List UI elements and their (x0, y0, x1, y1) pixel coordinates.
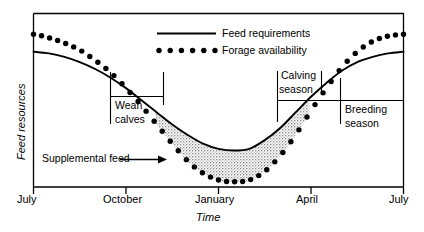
annotation-calving-season-line1: Calving (281, 70, 316, 81)
forage-data-point (288, 139, 293, 144)
forage-data-point (200, 170, 205, 175)
x-axis-title: Time (196, 212, 220, 224)
forage-data-point (248, 177, 253, 182)
annotation-breeding-season-line2: season (345, 118, 379, 129)
x-tick-label-july-end: July (389, 194, 409, 206)
forage-data-point (224, 179, 229, 184)
legend-label-forage-availability: Forage availability (222, 45, 307, 56)
forage-data-point (361, 44, 366, 49)
forage-data-point (345, 59, 350, 64)
forage-data-point (312, 102, 317, 107)
forage-data-point (304, 114, 309, 119)
forage-data-point (377, 36, 382, 41)
x-tick-label-july-start: July (17, 194, 37, 206)
legend-forage-dot (156, 48, 161, 53)
legend-forage-dot (201, 48, 206, 53)
legend-forage-swatch (156, 48, 217, 53)
forage-data-point (401, 32, 406, 37)
x-tick-label-january: January (195, 194, 234, 206)
annotation-calving-season-line2: season (279, 84, 313, 95)
legend-forage-dot (168, 48, 173, 53)
forage-data-point (216, 177, 221, 182)
forage-data-point (31, 32, 36, 37)
forage-data-point (79, 48, 84, 53)
series-feed-requirements (34, 52, 404, 151)
forage-data-point (87, 54, 92, 59)
chart-figure: Feed resources Time July October January… (0, 0, 424, 232)
x-tick-label-april: April (296, 194, 318, 206)
forage-data-point (151, 119, 156, 124)
annotation-supplemental-feed: Supplemental feed (42, 153, 130, 164)
forage-data-point (63, 41, 68, 46)
forage-data-point (160, 129, 165, 134)
forage-data-point (71, 44, 76, 49)
forage-data-point (39, 33, 44, 38)
x-tick-label-october: October (103, 194, 142, 206)
forage-data-point (256, 173, 261, 178)
forage-data-point (55, 38, 60, 43)
annotation-wean-calves-line1: Wean (115, 100, 142, 111)
forage-data-point (369, 39, 374, 44)
forage-data-point (103, 66, 108, 71)
forage-data-point (353, 51, 358, 56)
forage-data-point (192, 164, 197, 169)
forage-data-point (184, 157, 189, 162)
supplemental-feed-shaded-region (155, 98, 309, 182)
forage-data-point (385, 34, 390, 39)
legend-label-feed-requirements: Feed requirements (222, 28, 310, 39)
y-axis-title: Feed resources (16, 84, 28, 160)
forage-data-point (264, 167, 269, 172)
annotation-wean-calves-line2: calves (115, 114, 145, 125)
forage-data-point (393, 32, 398, 37)
legend-forage-dot (212, 48, 217, 53)
forage-data-point (240, 179, 245, 184)
forage-data-point (232, 179, 237, 184)
forage-data-point (95, 60, 100, 65)
legend-forage-dot (179, 48, 184, 53)
forage-data-point (208, 174, 213, 179)
forage-data-point (168, 139, 173, 144)
forage-data-point (176, 148, 181, 153)
forage-data-point (47, 35, 52, 40)
forage-data-point (296, 127, 301, 132)
forage-data-point (272, 159, 277, 164)
legend-forage-dot (190, 48, 195, 53)
forage-data-point (280, 150, 285, 155)
annotation-breeding-season-line1: Breeding (345, 104, 387, 115)
